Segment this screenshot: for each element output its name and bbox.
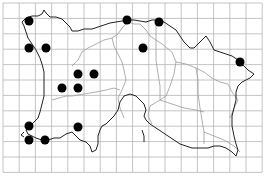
- map-canvas: [0, 0, 268, 180]
- distribution-map: [0, 0, 268, 180]
- occurrence-dot: [155, 18, 164, 27]
- occurrence-dot: [90, 70, 99, 79]
- occurrence-dot: [74, 123, 83, 132]
- occurrence-dot: [25, 136, 34, 145]
- occurrence-dot: [41, 136, 50, 145]
- occurrence-dot: [139, 44, 148, 53]
- occurrence-dot: [25, 17, 34, 26]
- occurrence-dot: [42, 44, 51, 53]
- occurrence-dot: [123, 16, 132, 25]
- occurrence-dot: [58, 84, 67, 93]
- occurrence-dot: [74, 70, 83, 79]
- occurrence-dot: [25, 122, 34, 131]
- occurrence-dot: [74, 84, 83, 93]
- coastline: [21, 10, 254, 156]
- occurrence-dot: [25, 44, 34, 53]
- occurrence-dot: [236, 58, 245, 67]
